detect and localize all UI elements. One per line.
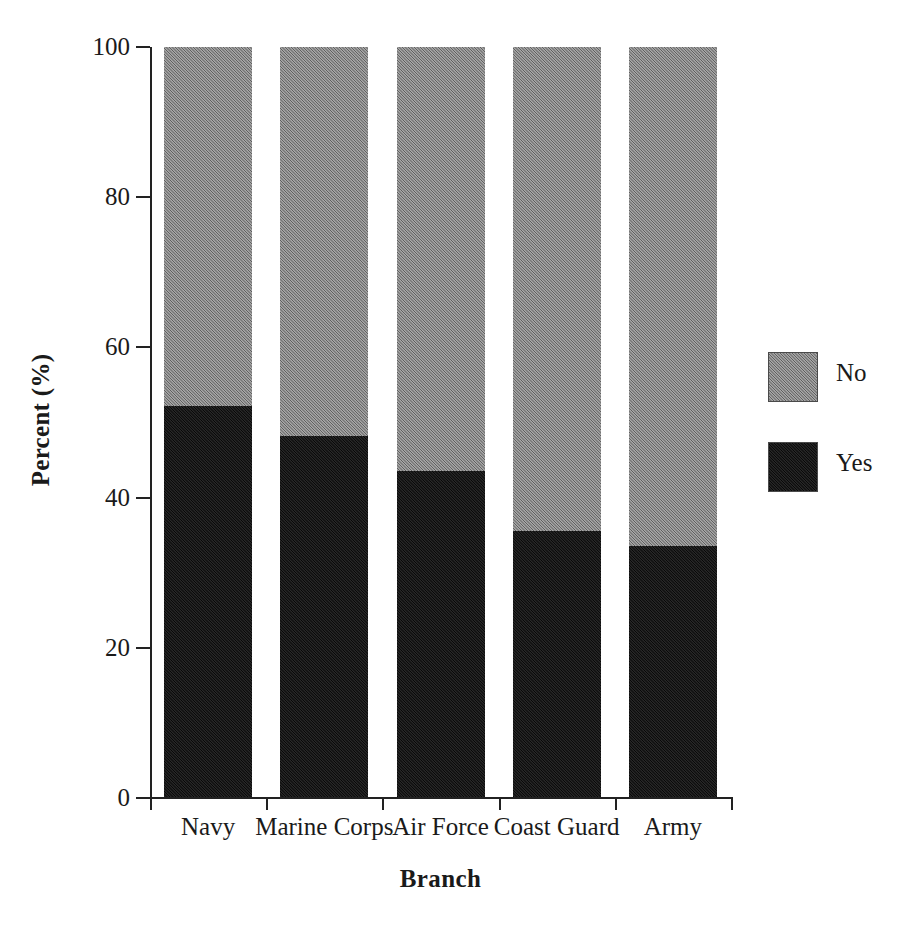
bar-segment-yes (629, 546, 717, 798)
y-axis-tick-label: 20 (40, 635, 130, 660)
y-axis-tick (136, 346, 150, 348)
x-axis-tick-label: Army (563, 813, 783, 842)
x-axis-tick (499, 797, 501, 810)
x-axis-tick (382, 797, 384, 810)
stacked-bar-chart: Percent (%) 100806040200 NavyMarine Corp… (0, 0, 904, 927)
y-axis-tick-label: 60 (40, 334, 130, 359)
bar-segment-yes (164, 406, 252, 798)
bar-segment-no (629, 47, 717, 546)
y-axis-tick-label: 80 (40, 184, 130, 209)
bar-group (164, 47, 252, 798)
x-axis-title: Branch (150, 865, 731, 893)
bar-segment-no (280, 47, 368, 436)
x-axis-tick (615, 797, 617, 810)
y-axis-tick-label: 100 (40, 34, 130, 59)
y-axis-tick-label: 40 (40, 485, 130, 510)
bar-group (397, 47, 485, 798)
bar-segment-no (397, 47, 485, 471)
x-axis-tick (731, 797, 733, 810)
black-swatch (768, 442, 818, 492)
bar-group (513, 47, 601, 798)
y-axis-tick (136, 797, 150, 799)
bar-group (280, 47, 368, 798)
x-axis-tick (266, 797, 268, 810)
x-axis-tick (150, 797, 152, 810)
y-axis-tick-labels: 100806040200 (30, 0, 130, 927)
bar-segment-yes (397, 471, 485, 798)
x-axis-line (150, 797, 731, 799)
bar-segment-yes (513, 531, 601, 798)
y-axis-tick (136, 196, 150, 198)
y-axis-tick (136, 497, 150, 499)
y-axis-tick (136, 46, 150, 48)
legend-item-label: Yes (836, 450, 872, 475)
bar-segment-no (164, 47, 252, 406)
y-axis-tick-label: 0 (40, 785, 130, 810)
y-axis-tick (136, 647, 150, 649)
bar-segment-no (513, 47, 601, 531)
gray-swatch (768, 352, 818, 402)
y-axis-line (150, 47, 152, 799)
bar-segment-yes (280, 436, 368, 798)
legend-item-label: No (836, 360, 867, 385)
bar-group (629, 47, 717, 798)
